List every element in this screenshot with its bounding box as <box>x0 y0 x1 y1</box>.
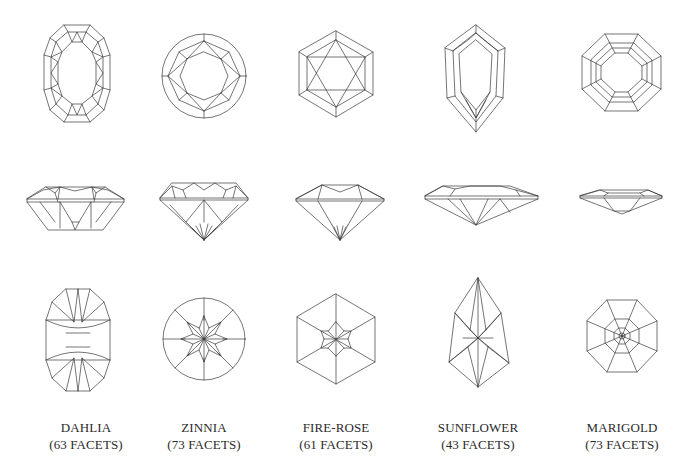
gem-name: DAHLIA <box>21 419 151 436</box>
gem-facet-diagrams <box>0 0 692 461</box>
gem-label-fire-rose: FIRE-ROSE (61 FACETS) <box>271 419 401 453</box>
gem-name: ZINNIA <box>139 419 269 436</box>
gem-name: FIRE-ROSE <box>271 419 401 436</box>
sunflower-top-view <box>445 25 505 132</box>
gem-name: SUNFLOWER <box>413 419 543 436</box>
fire-rose-side-view <box>296 185 384 240</box>
marigold-pavilion-view <box>587 300 657 372</box>
gem-facet-count: (43 FACETS) <box>413 436 543 453</box>
dahlia-side-view <box>27 187 124 230</box>
gem-label-marigold: MARIGOLD (73 FACETS) <box>557 419 687 453</box>
gem-facet-count: (63 FACETS) <box>21 436 151 453</box>
sunflower-side-view <box>425 186 538 225</box>
gem-facet-count: (73 FACETS) <box>139 436 269 453</box>
gem-label-sunflower: SUNFLOWER (43 FACETS) <box>413 419 543 453</box>
marigold-side-view <box>580 190 662 214</box>
gem-facet-count: (73 FACETS) <box>557 436 687 453</box>
marigold-top-view <box>582 34 661 111</box>
fire-rose-pavilion-view <box>297 294 375 384</box>
fire-rose-top-view <box>299 31 373 117</box>
zinnia-top-view <box>162 34 246 118</box>
dahlia-top-view <box>44 25 110 122</box>
zinnia-side-view <box>160 183 248 240</box>
zinnia-pavilion-view <box>163 298 245 380</box>
dahlia-pavilion-view <box>46 289 110 391</box>
gem-facet-count: (61 FACETS) <box>271 436 401 453</box>
gem-label-zinnia: ZINNIA (73 FACETS) <box>139 419 269 453</box>
sunflower-pavilion-view <box>449 278 509 387</box>
gem-label-dahlia: DAHLIA (63 FACETS) <box>21 419 151 453</box>
gem-name: MARIGOLD <box>557 419 687 436</box>
